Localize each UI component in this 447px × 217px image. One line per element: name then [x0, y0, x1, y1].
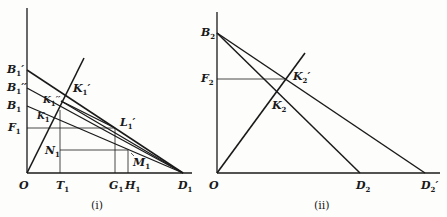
label-B1: B1 [7, 100, 21, 113]
label-K1-double-prime: K1′′ [43, 96, 60, 107]
label-O-i: O [19, 180, 29, 191]
caption-panel-i: (i) [91, 199, 103, 212]
label-K1-prime: K1′ [73, 83, 90, 96]
label-N1: N1 [45, 145, 60, 158]
label-D2-prime: D2′ [421, 180, 438, 193]
label-F1: F1 [8, 122, 21, 135]
label-L1-prime: L1′ [120, 117, 136, 130]
label-K2: K2 [272, 100, 286, 113]
label-B1-double-prime: B1′′ [7, 82, 27, 95]
caption-panel-ii: (ii) [314, 199, 330, 212]
label-D1: D1 [178, 180, 192, 193]
panel-ii-ray [217, 53, 305, 173]
label-M1: M1 [133, 157, 150, 170]
label-O-ii: O [209, 180, 219, 191]
label-F2: F2 [201, 73, 214, 86]
label-H1: H1 [125, 180, 140, 193]
line-B1-D1 [27, 106, 183, 173]
line-K1pp-D1 [61, 101, 183, 173]
line-B2-D2p [217, 33, 425, 173]
label-T1: T1 [56, 180, 69, 193]
diagram-canvas: B1′ B1′′ B1 F1 K1′ K1′′ K1 L1′ N1 M1 O T… [0, 0, 447, 217]
line-B2-D2 [217, 33, 360, 173]
label-B2: B2 [201, 27, 215, 40]
label-B1-prime: B1′ [7, 64, 24, 77]
label-G1: G1 [109, 180, 123, 193]
label-K2-prime: K2′ [293, 71, 310, 84]
label-K1: K1 [37, 112, 50, 123]
label-D2: D2 [356, 180, 370, 193]
